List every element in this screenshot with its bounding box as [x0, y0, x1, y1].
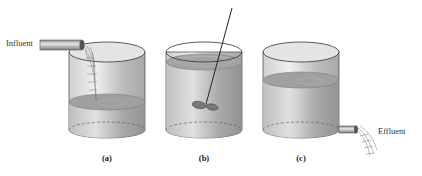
- caption-c: (c): [296, 153, 305, 163]
- caption-a: (a): [102, 153, 112, 163]
- diagram-canvas: [0, 0, 422, 176]
- effluent-label: Effluent: [378, 126, 406, 136]
- influent-pipe: [40, 40, 82, 50]
- influent-label: Influent: [6, 38, 33, 48]
- caption-b: (b): [199, 153, 209, 163]
- tank-b: [166, 8, 242, 138]
- effluent-pipe: [339, 126, 356, 133]
- effluent-stream: [358, 126, 377, 155]
- tank-c: [263, 42, 377, 155]
- tank-a: [40, 40, 145, 138]
